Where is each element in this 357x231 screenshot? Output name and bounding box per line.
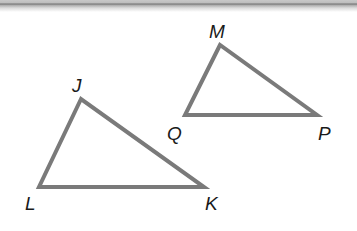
similar-triangles-diagram: J L K M Q P bbox=[0, 0, 357, 231]
vertex-label-q: Q bbox=[167, 123, 182, 144]
vertex-label-m: M bbox=[209, 21, 225, 42]
vertex-label-k: K bbox=[205, 193, 219, 214]
vertex-label-j: J bbox=[71, 75, 82, 96]
vertex-label-p: P bbox=[318, 123, 331, 144]
triangle-mqp bbox=[185, 45, 317, 115]
vertex-label-l: L bbox=[25, 193, 36, 214]
